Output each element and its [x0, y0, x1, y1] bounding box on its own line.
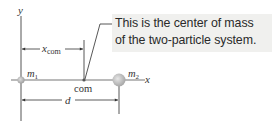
callout-line-2: of the two-particle system. [115, 32, 272, 49]
com-label: com [74, 83, 92, 94]
callout-box: This is the center of mass of the two-pa… [112, 14, 272, 52]
com-point [82, 78, 85, 81]
y-axis-label: y [17, 4, 23, 16]
m1-label: m1 [27, 68, 39, 81]
callout-line-1: This is the center of mass [115, 15, 272, 32]
x-axis-label: x [144, 73, 150, 85]
d-label: d [65, 94, 71, 106]
center-of-mass-diagram: y x m1 m2 xcom com d This is the center … [0, 0, 275, 140]
particle-m2 [113, 74, 126, 87]
callout-leader-line [85, 24, 115, 79]
particle-m1 [17, 76, 24, 83]
m2-label: m2 [128, 68, 140, 81]
xcom-label: xcom [41, 42, 61, 56]
